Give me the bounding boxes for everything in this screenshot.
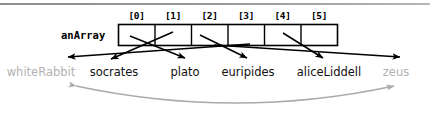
- index-label-4: [4]: [264, 11, 301, 21]
- variable-label: anArray: [61, 30, 105, 41]
- object-label-euripides: euripides: [213, 67, 283, 79]
- object-label-socrates: socrates: [80, 67, 148, 79]
- object-label-zeus: zeus: [373, 67, 419, 79]
- index-label-1: [1]: [155, 11, 192, 21]
- index-label-0: [0]: [118, 11, 155, 21]
- index-label-2: [2]: [191, 11, 228, 21]
- scope-arc-double-arrow: [76, 86, 394, 103]
- object-label-plato: plato: [158, 67, 212, 79]
- object-label-whiteRabbit: whiteRabbit: [2, 67, 80, 79]
- object-label-aliceLiddell: aliceLiddell: [288, 67, 370, 79]
- array-reference-diagram: anArray [0] [1] [2] [3] [4] [5] whiteRab…: [0, 0, 430, 117]
- index-label-5: [5]: [301, 11, 338, 21]
- index-label-3: [3]: [228, 11, 265, 21]
